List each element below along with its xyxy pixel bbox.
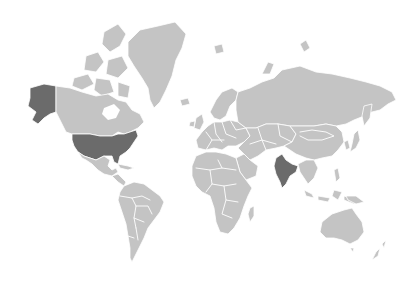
country-ireland[interactable] bbox=[189, 121, 195, 127]
world-map bbox=[0, 0, 412, 281]
